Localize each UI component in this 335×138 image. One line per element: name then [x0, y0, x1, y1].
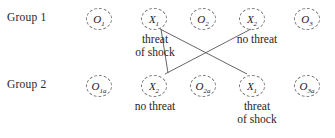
node-o1a-label: O1a: [92, 81, 107, 92]
node-x1-top-label: X1: [149, 14, 159, 25]
node-x2-top: X2: [239, 8, 265, 30]
caption-top-left: threat of shock: [120, 33, 190, 59]
node-o3a-label: O3a: [300, 81, 315, 92]
caption-top-left-line-1: threat: [120, 33, 190, 46]
caption-top-right: no threat: [222, 33, 292, 46]
node-x1-bottom-label: X1: [247, 81, 257, 92]
node-x2-top-label: X2: [247, 14, 257, 25]
caption-top-right-line-1: no threat: [222, 33, 292, 46]
node-x1-bottom: X1: [239, 75, 265, 97]
node-o2a: O2a: [190, 75, 216, 97]
node-o3: O3: [294, 8, 320, 30]
group-label-1: Group 1: [7, 11, 46, 23]
caption-bottom-right-line-1: threat: [222, 100, 292, 113]
caption-bottom-right-line-2: of shock: [222, 113, 292, 126]
node-o2a-label: O2a: [196, 81, 211, 92]
node-o2-label: O2: [197, 14, 208, 25]
caption-bottom-right: threat of shock: [222, 100, 292, 126]
node-o1a: O1a: [86, 75, 112, 97]
node-o3-label: O3: [301, 14, 312, 25]
caption-bottom-left-line-1: no threat: [120, 100, 190, 113]
caption-bottom-left: no threat: [120, 100, 190, 113]
node-o2: O2: [190, 8, 216, 30]
group-label-2: Group 2: [7, 78, 46, 90]
node-x1-top: X1: [141, 8, 167, 30]
diagram-canvas: Group 1 Group 2 O1 X1 O2 X2 O3 O1a X2 O2…: [0, 0, 335, 138]
node-o3a: O3a: [294, 75, 320, 97]
node-x2-bottom-label: X2: [149, 81, 159, 92]
node-o1-label: O1: [93, 14, 104, 25]
node-x2-bottom: X2: [141, 75, 167, 97]
caption-top-left-line-2: of shock: [120, 46, 190, 59]
node-o1: O1: [86, 8, 112, 30]
